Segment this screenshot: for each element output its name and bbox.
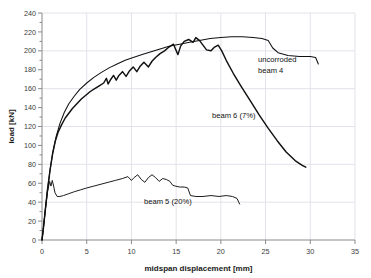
x-tick-label: 30 — [306, 247, 314, 256]
y-tick-label: 20 — [28, 217, 36, 226]
uncorroded-beam-4-label-line2: beam 4 — [258, 66, 283, 75]
x-tick-label: 0 — [40, 247, 44, 256]
gridlines — [42, 13, 355, 240]
x-tick-label: 20 — [217, 247, 225, 256]
x-tick-label: 35 — [351, 247, 359, 256]
y-tick-label: 100 — [24, 141, 36, 150]
x-axis-title: midspan displacement [mm] — [144, 264, 252, 273]
series-line-beam-5-20- — [42, 175, 240, 240]
x-tick-label: 10 — [127, 247, 135, 256]
axis-tick-labels: 0204060801001201401601802002202400510152… — [24, 9, 359, 256]
axis-ticks — [38, 13, 355, 244]
y-tick-label: 220 — [24, 28, 36, 37]
y-tick-label: 180 — [24, 65, 36, 74]
beam-6-label: beam 6 (7%) — [212, 111, 256, 120]
uncorroded-beam-4-label-line1: uncorroded — [258, 55, 296, 64]
chart-container: 0204060801001201401601802002202400510152… — [0, 0, 371, 278]
x-tick-label: 15 — [172, 247, 180, 256]
y-tick-label: 60 — [28, 179, 36, 188]
y-tick-label: 40 — [28, 198, 36, 207]
y-tick-label: 160 — [24, 84, 36, 93]
y-tick-label: 80 — [28, 160, 36, 169]
y-axis-title: load [kN] — [7, 109, 16, 144]
y-tick-label: 0 — [32, 236, 36, 245]
y-tick-label: 240 — [24, 9, 36, 18]
load-displacement-chart: 0204060801001201401601802002202400510152… — [0, 0, 371, 278]
beam-5-label: beam 5 (20%) — [144, 197, 192, 206]
y-tick-label: 120 — [24, 122, 36, 131]
chart-annotations: uncorroded beam 4 beam 6 (7%) beam 5 (20… — [144, 55, 296, 206]
x-tick-label: 5 — [85, 247, 89, 256]
x-tick-label: 25 — [262, 247, 270, 256]
y-tick-label: 140 — [24, 103, 36, 112]
y-tick-label: 200 — [24, 46, 36, 55]
